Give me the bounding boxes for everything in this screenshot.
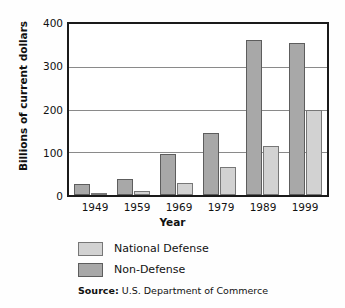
plot-area: [67, 22, 329, 197]
bar-non-defense-1979: [203, 133, 220, 195]
bar-non-defense-1949: [74, 184, 91, 195]
legend-item-national-defense: National Defense: [78, 239, 209, 258]
chart-legend: National Defense Non-Defense: [78, 239, 209, 281]
bar-national-defense-1989: [263, 146, 280, 195]
y-tick-label-0: 0: [33, 191, 63, 202]
bar-national-defense-1949: [91, 193, 108, 195]
y-tick-label-100: 100: [33, 148, 63, 159]
y-axis-title-container: Billions of current dollars: [0, 0, 26, 200]
x-tick-label-1969: 1969: [156, 201, 202, 213]
legend-item-non-defense: Non-Defense: [78, 260, 209, 279]
bar-group: [117, 24, 151, 195]
bar-national-defense-1979: [220, 167, 237, 195]
x-tick-label-1989: 1989: [240, 201, 286, 213]
bar-groups: [69, 24, 327, 195]
x-tick-label-1949: 1949: [72, 201, 118, 213]
y-tick-label-300: 300: [33, 61, 63, 72]
bar-group: [289, 24, 323, 195]
y-axis-title: Billions of current dollars: [17, 11, 29, 181]
bar-group: [246, 24, 280, 195]
y-tick-label-400: 400: [33, 18, 63, 29]
bar-non-defense-1999: [289, 43, 306, 195]
bar-non-defense-1969: [160, 154, 177, 195]
bar-group: [160, 24, 194, 195]
bar-national-defense-1999: [306, 110, 323, 196]
bar-non-defense-1959: [117, 179, 134, 195]
legend-label-non-defense: Non-Defense: [114, 263, 185, 276]
bar-national-defense-1969: [177, 183, 194, 195]
bar-group: [203, 24, 237, 195]
source-note: Source: U.S. Department of Commerce: [78, 285, 268, 296]
bar-national-defense-1959: [134, 191, 151, 195]
legend-swatch-non-defense: [78, 263, 103, 277]
legend-label-national-defense: National Defense: [114, 242, 209, 255]
chart-figure: Billions of current dollars 400 300 200 …: [0, 0, 345, 308]
source-prefix: Source:: [78, 285, 119, 296]
x-axis-title: Year: [0, 216, 345, 228]
bar-group: [74, 24, 108, 195]
x-tick-label-1979: 1979: [198, 201, 244, 213]
source-text: U.S. Department of Commerce: [122, 285, 268, 296]
x-tick-label-1999: 1999: [282, 201, 328, 213]
legend-swatch-national-defense: [78, 242, 103, 256]
y-tick-label-200: 200: [33, 105, 63, 116]
bar-non-defense-1989: [246, 40, 263, 195]
x-tick-label-1959: 1959: [114, 201, 160, 213]
